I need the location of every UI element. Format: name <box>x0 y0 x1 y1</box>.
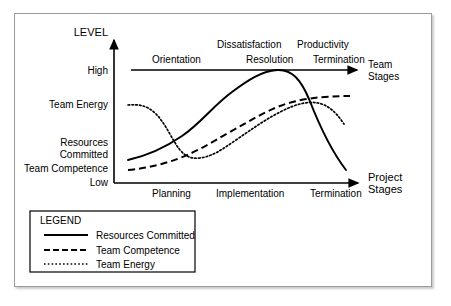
x-tick-termination: Termination <box>310 188 362 199</box>
top-axis-title-line2: Stages <box>368 71 399 82</box>
team-stage-orientation: Orientation <box>152 54 201 65</box>
x-axis-title-line2: Stages <box>368 183 403 195</box>
team-stage-productivity: Productivity <box>297 39 349 50</box>
y-tick-low: Low <box>90 177 109 188</box>
figure-root: LEVEL Project Stages Team Stages Orienta… <box>0 0 451 306</box>
series-team-energy <box>128 102 344 158</box>
series-team-competence <box>128 96 350 170</box>
top-axis-title-line1: Team <box>368 59 392 70</box>
y-axis-title: LEVEL <box>74 26 108 38</box>
y-label-resources-committed-line1: Resources <box>60 137 108 148</box>
chart-canvas: LEVEL Project Stages Team Stages Orienta… <box>0 0 451 306</box>
y-label-resources-committed-line2: Committed <box>60 149 108 160</box>
team-stage-resolution: Resolution <box>246 54 293 65</box>
x-tick-planning: Planning <box>152 188 191 199</box>
team-stage-termination: Termination <box>313 54 365 65</box>
legend-label-resources-committed: Resources Committed <box>96 230 195 241</box>
team-stage-dissatisfaction: Dissatisfaction <box>217 39 281 50</box>
y-tick-high: High <box>87 65 108 76</box>
y-label-team-competence: Team Competence <box>24 163 108 174</box>
x-tick-implementation: Implementation <box>216 188 284 199</box>
y-label-team-energy: Team Energy <box>49 99 108 110</box>
legend-title: LEGEND <box>40 215 81 226</box>
legend-label-team-energy: Team Energy <box>96 259 155 270</box>
x-axis-title-line1: Project <box>368 171 402 183</box>
legend-label-team-competence: Team Competence <box>96 245 180 256</box>
